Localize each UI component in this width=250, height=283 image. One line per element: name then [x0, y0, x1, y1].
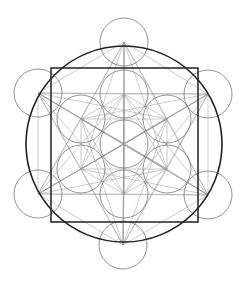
connecting-line: [124, 169, 167, 194]
connecting-line: [38, 93, 208, 195]
metatron-cube-diagram: [0, 0, 250, 283]
connecting-line: [123, 195, 208, 245]
connecting-line: [81, 119, 123, 245]
